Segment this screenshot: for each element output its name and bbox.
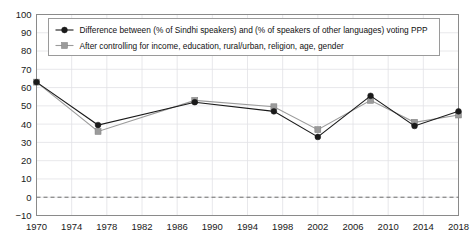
data-point-marker (271, 108, 277, 114)
x-tick-label: 2018 (448, 221, 469, 232)
data-point-marker (368, 93, 374, 99)
y-tick-label: 0 (26, 192, 31, 203)
legend-entry-label: Difference between (% of Sindhi speakers… (80, 25, 429, 35)
data-point-marker (456, 108, 462, 114)
x-tick-label: 1982 (131, 221, 152, 232)
line-chart: 1009080706050403020100−10 19701974197819… (0, 0, 473, 247)
y-tick-label: 30 (21, 137, 32, 148)
x-axis-tick-labels: 1970197419781982198619901994199820022006… (26, 221, 469, 232)
x-tick-label: 2014 (413, 221, 434, 232)
y-axis-tick-labels: 1009080706050403020100−10 (15, 9, 31, 221)
y-tick-label: 100 (16, 9, 32, 20)
chart-legend: Difference between (% of Sindhi speakers… (49, 19, 440, 56)
x-tick-label: 1994 (237, 221, 258, 232)
y-tick-label: 90 (21, 27, 32, 38)
chart-figure: 1009080706050403020100−10 19701974197819… (0, 0, 473, 247)
x-tick-label: 1974 (61, 221, 82, 232)
y-tick-label: 40 (21, 119, 32, 130)
data-point-marker (34, 79, 40, 85)
y-tick-label: 50 (21, 100, 32, 111)
legend-entry-label: After controlling for income, education,… (80, 41, 345, 51)
y-tick-label: 20 (21, 155, 32, 166)
data-point-marker (315, 127, 321, 133)
circle-marker-icon (62, 27, 68, 33)
y-tick-label: 70 (21, 64, 32, 75)
x-tick-label: 1978 (96, 221, 117, 232)
data-point-marker (95, 122, 101, 128)
x-tick-label: 1998 (272, 221, 293, 232)
data-point-marker (315, 134, 321, 140)
y-tick-label: 60 (21, 82, 32, 93)
y-tick-label: −10 (15, 210, 31, 221)
data-point-marker (192, 99, 198, 105)
x-tick-label: 2002 (307, 221, 328, 232)
x-tick-label: 1986 (167, 221, 188, 232)
x-tick-label: 2010 (378, 221, 399, 232)
x-tick-label: 1990 (202, 221, 223, 232)
square-marker-icon (62, 43, 68, 49)
x-tick-label: 1970 (26, 221, 47, 232)
data-point-marker (412, 123, 418, 129)
x-tick-label: 2006 (342, 221, 363, 232)
y-tick-label: 80 (21, 45, 32, 56)
data-point-marker (95, 128, 101, 134)
y-tick-label: 10 (21, 173, 32, 184)
